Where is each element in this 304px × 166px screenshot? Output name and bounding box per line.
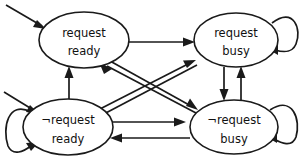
state-ellipse[interactable] <box>190 100 278 154</box>
state-request-ready[interactable]: request ready <box>39 12 129 68</box>
edge-request-busy-to-not-request-ready <box>95 65 197 119</box>
state-ellipse[interactable] <box>39 12 129 68</box>
edge-not-request-ready-to-request-busy <box>98 60 196 110</box>
edge-request-busy-to-not-request-busy <box>220 67 229 101</box>
edge-not-request-ready-to-request-ready <box>65 66 74 99</box>
edge-not-request-busy-to-request-ready <box>99 62 196 113</box>
state-label-line1: request <box>62 26 106 40</box>
state-ellipse[interactable] <box>194 13 278 67</box>
state-request-busy[interactable]: request busy <box>194 13 278 67</box>
state-label-line2: ready <box>52 132 85 146</box>
state-ellipse[interactable] <box>23 99 113 155</box>
edge-not-request-ready-to-not-request-busy <box>108 118 186 127</box>
arrow-head-icon <box>174 118 186 127</box>
state-label-line2: ready <box>68 44 101 58</box>
state-label-line1: request <box>214 26 258 40</box>
edge-request-ready-to-request-busy <box>129 38 195 47</box>
arrow-head-icon <box>220 89 229 101</box>
arrow-head-icon <box>237 66 246 78</box>
state-label-line2: busy <box>220 132 248 146</box>
arrow-head-icon <box>183 38 195 47</box>
state-not-request-ready[interactable]: ¬request ready <box>23 99 113 155</box>
edge-not-request-busy-to-not-request-ready <box>110 134 190 143</box>
state-label-line1: ¬request <box>41 113 95 127</box>
state-label-line1: ¬request <box>207 113 261 127</box>
edge-not-request-busy-to-request-busy <box>237 66 246 100</box>
initial-arrow-request-ready <box>6 5 46 29</box>
state-label-line2: busy <box>222 44 250 58</box>
state-diagram-canvas: request ready request busy ¬request read… <box>0 0 304 166</box>
edge-request-ready-to-not-request-busy <box>110 61 198 110</box>
state-not-request-busy[interactable]: ¬request busy <box>190 100 278 154</box>
state-transition-diagram: request ready request busy ¬request read… <box>0 0 304 166</box>
